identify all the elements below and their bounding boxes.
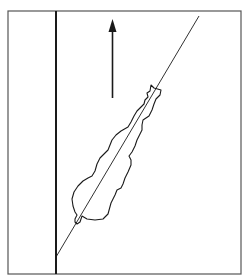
background [0,0,248,279]
diagram-figure [0,0,248,279]
